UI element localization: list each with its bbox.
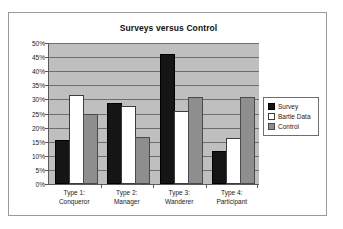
y-axis-tick-label: 15% xyxy=(11,139,45,146)
bar-bartle-data[interactable] xyxy=(121,106,136,184)
bar-survey[interactable] xyxy=(160,54,175,184)
bar-group xyxy=(102,43,155,184)
legend-item[interactable]: Bartle Data xyxy=(268,112,315,121)
legend-swatch-survey-icon xyxy=(268,103,275,110)
plot-area xyxy=(48,43,259,185)
y-axis-tick-label: 40% xyxy=(11,68,45,75)
x-axis-tick-mark xyxy=(257,184,258,188)
legend-swatch-control-icon xyxy=(268,123,275,130)
y-axis-tick-label: 10% xyxy=(11,153,45,160)
y-axis-tick-label: 0% xyxy=(11,181,45,188)
bar-control[interactable] xyxy=(135,137,150,184)
chart-title: Surveys versus Control xyxy=(9,23,328,33)
y-axis-tick-label: 50% xyxy=(11,40,45,47)
legend-label: Control xyxy=(278,123,299,130)
x-axis-category-line: Type 1: xyxy=(46,188,102,197)
x-axis-tick-mark xyxy=(153,184,154,188)
bar-control[interactable] xyxy=(188,97,203,184)
x-axis-category-line: Type 2: xyxy=(99,188,155,197)
y-axis-tick-label: 25% xyxy=(11,111,45,118)
legend-label: Survey xyxy=(278,103,298,110)
legend-label: Bartle Data xyxy=(278,113,311,120)
bar-control[interactable] xyxy=(83,114,98,184)
x-axis-category-line: Manager xyxy=(99,197,155,206)
bar-group xyxy=(49,43,102,184)
x-axis: Type 1:ConquerorType 2:ManagerType 3:Wan… xyxy=(48,188,258,212)
x-axis-tick-mark xyxy=(101,184,102,188)
bar-group xyxy=(207,43,260,184)
x-axis-category-label: Type 2:Manager xyxy=(99,188,155,206)
y-axis-tick-label: 20% xyxy=(11,125,45,132)
bar-group xyxy=(154,43,207,184)
bar-survey[interactable] xyxy=(107,103,122,184)
y-axis-tick-label: 5% xyxy=(11,167,45,174)
bar-survey[interactable] xyxy=(212,151,227,184)
x-axis-category-line: Participant xyxy=(204,197,260,206)
bar-survey[interactable] xyxy=(55,140,70,184)
legend-swatch-bartle-data-icon xyxy=(268,113,275,120)
legend-item[interactable]: Survey xyxy=(268,102,315,111)
x-axis-tick-mark xyxy=(206,184,207,188)
bar-control[interactable] xyxy=(240,97,255,184)
bar-bartle-data[interactable] xyxy=(69,95,84,184)
legend-item[interactable]: Control xyxy=(268,122,315,131)
x-axis-category-label: Type 4:Participant xyxy=(204,188,260,206)
y-axis-tick-label: 35% xyxy=(11,82,45,89)
y-axis-tick-label: 30% xyxy=(11,96,45,103)
chart-figure: Surveys versus Control 50%45%40%35%30%25… xyxy=(8,12,327,216)
x-axis-category-line: Type 4: xyxy=(204,188,260,197)
y-axis: 50%45%40%35%30%25%20%15%10%5%0% xyxy=(9,43,45,184)
x-axis-category-label: Type 1:Conqueror xyxy=(46,188,102,206)
bar-bartle-data[interactable] xyxy=(226,138,241,184)
x-axis-category-line: Type 3: xyxy=(151,188,207,197)
y-axis-tick-label: 45% xyxy=(11,54,45,61)
chart-legend: Survey Bartle Data Control xyxy=(263,97,319,136)
x-axis-category-line: Wanderer xyxy=(151,197,207,206)
x-axis-category-label: Type 3:Wanderer xyxy=(151,188,207,206)
x-axis-category-line: Conqueror xyxy=(46,197,102,206)
bar-bartle-data[interactable] xyxy=(174,111,189,184)
